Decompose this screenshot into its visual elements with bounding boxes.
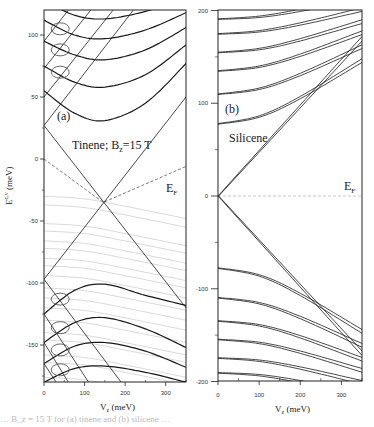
crossing-marker-ellipse (51, 322, 69, 334)
landau-level-line (218, 298, 362, 347)
figure-caption-fragment: … B_z = 15 T for (a) tinene and (b) sili… (0, 414, 374, 427)
landau-level-line (44, 10, 68, 41)
landau-level-line (44, 126, 186, 308)
landau-level-line (44, 97, 186, 279)
panel-a-fermi-label: EF (166, 181, 177, 197)
panel-a-y-axis-title: Ec,v (meV) (3, 167, 14, 205)
panel-a-tinene: 100500-50-100-1500100200300 (a) Tinene; … (3, 0, 186, 413)
x-tick-label: 300 (161, 390, 172, 396)
x-tick-label: 300 (336, 392, 347, 398)
gray-level-line (44, 224, 186, 246)
x-tick-label: 100 (254, 392, 265, 398)
landau-level-line (218, 196, 362, 356)
landau-level-line (218, 37, 362, 197)
landau-level-line (218, 35, 362, 72)
y-tick-label: 200 (198, 8, 209, 14)
landau-level-line (218, 62, 362, 124)
gray-level-line (44, 320, 186, 342)
landau-level-line (218, 41, 362, 197)
panel-a-frame (44, 10, 186, 382)
landau-level-line (218, 339, 362, 368)
y-tick-label: 0 (205, 193, 209, 199)
landau-level-line (218, 321, 362, 358)
landau-level-line (218, 24, 362, 53)
y-tick-label: -100 (26, 280, 39, 286)
x-tick-label: 0 (216, 392, 220, 398)
landau-level-line (218, 11, 362, 34)
landau-level-line (218, 268, 362, 330)
x-tick-label: 200 (120, 390, 131, 396)
landau-level-line (218, 195, 362, 351)
crossing-marker-ellipse (51, 44, 69, 56)
y-tick-label: 100 (28, 32, 39, 38)
panel-a-gray-levels (44, 196, 186, 399)
panel-b-landau-levels (218, 0, 362, 396)
panel-b-frame (218, 10, 362, 381)
panel-a-title: Tinene; Bz=15 T (72, 138, 152, 154)
landau-level-line (44, 13, 186, 39)
fermi-level-line (44, 159, 186, 202)
y-tick-label: -200 (196, 379, 209, 385)
panel-b-label: (b) (225, 102, 239, 116)
y-tick-label: -50 (29, 218, 38, 224)
panel-b-title: Silicene (229, 131, 268, 145)
y-tick-label: 0 (35, 156, 39, 162)
panel-a-label: (a) (57, 109, 70, 123)
y-tick-label: -100 (196, 286, 209, 292)
y-tick-label: -150 (26, 342, 39, 348)
y-tick-label: 100 (198, 100, 209, 106)
panel-a-x-axis-title: Vz (meV) (100, 402, 135, 413)
x-tick-label: 100 (80, 390, 91, 396)
panel-b-silicene: 2001000-100-2000100200300 (b) Silicene E… (196, 0, 362, 415)
y-tick-label: 50 (31, 94, 38, 100)
gray-level-line (44, 258, 186, 280)
x-tick-label: 200 (295, 392, 306, 398)
panel-a-landau-levels (44, 0, 186, 382)
figure: 100500-50-100-1500100200300 (a) Tinene; … (0, 0, 374, 427)
x-tick-label: 0 (42, 390, 46, 396)
landau-level-line (218, 45, 362, 94)
gray-level-line (44, 196, 186, 218)
landau-level-line (218, 358, 362, 381)
landau-level-line (44, 10, 91, 68)
panel-b-fermi-label: EF (344, 179, 355, 195)
